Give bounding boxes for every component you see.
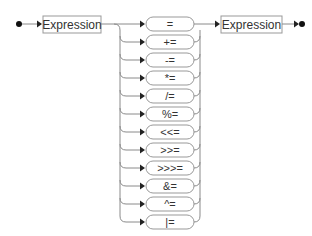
left-expression-node: Expression xyxy=(42,16,101,33)
arrow-icon xyxy=(140,111,145,118)
arrow-icon xyxy=(294,21,299,28)
arrow-icon xyxy=(140,93,145,100)
operator-label: ^= xyxy=(164,198,176,210)
assignment-syntax-diagram: Expression =+=-=*=/=%=<<=>>=>>>=&=^=|= E… xyxy=(0,0,312,236)
operator-label: >>>= xyxy=(157,162,183,174)
arrow-icon xyxy=(140,147,145,154)
operator-branch: ^= xyxy=(120,197,200,211)
operator-branch: &= xyxy=(120,179,200,193)
operator-branch: -= xyxy=(120,53,200,67)
arrow-icon xyxy=(140,39,145,46)
arrow-icon xyxy=(140,165,145,172)
operator-label: -= xyxy=(165,54,175,66)
operator-choice-group: =+=-=*=/=%=<<=>>=>>>=&=^=|= xyxy=(101,17,200,229)
end-dot-icon xyxy=(299,21,305,27)
arrow-icon xyxy=(140,57,145,64)
start-dot-icon xyxy=(16,21,22,27)
left-expression-label: Expression xyxy=(42,18,101,32)
arrow-icon xyxy=(140,219,145,226)
operator-branch: = xyxy=(114,17,200,31)
arrow-icon xyxy=(140,21,145,28)
arrow-icon xyxy=(140,201,145,208)
operator-label: /= xyxy=(165,90,174,102)
operator-branch: *= xyxy=(120,71,200,85)
operator-branch: /= xyxy=(120,89,200,103)
arrow-icon xyxy=(140,183,145,190)
operator-label: %= xyxy=(162,108,178,120)
operator-label: <<= xyxy=(160,126,179,138)
arrow-icon xyxy=(37,21,42,28)
operator-label: >>= xyxy=(160,144,179,156)
arrow-icon xyxy=(140,129,145,136)
operator-branch: >>>= xyxy=(120,161,200,175)
operator-label: = xyxy=(167,18,173,30)
right-expression-label: Expression xyxy=(222,18,281,32)
operator-branch: += xyxy=(120,35,200,49)
operator-branch: %= xyxy=(120,107,200,121)
right-expression-node: Expression xyxy=(200,16,282,33)
operator-label: += xyxy=(164,36,177,48)
operator-label: *= xyxy=(165,72,176,84)
arrow-icon xyxy=(140,75,145,82)
operator-branch: <<= xyxy=(120,125,200,139)
operator-label: |= xyxy=(165,216,174,228)
arrow-icon xyxy=(215,21,220,28)
operator-branch: >>= xyxy=(120,143,200,157)
operator-branch: |= xyxy=(120,215,200,229)
operator-label: &= xyxy=(163,180,177,192)
